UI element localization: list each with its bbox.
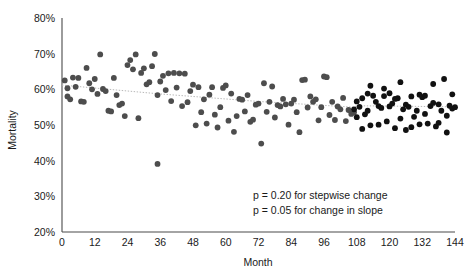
data-point	[185, 99, 191, 105]
data-point	[81, 99, 87, 105]
data-point	[340, 95, 346, 101]
data-point	[204, 121, 210, 127]
x-tick-label: 132	[413, 236, 431, 248]
data-point	[395, 95, 401, 101]
data-point	[84, 65, 90, 71]
data-point	[354, 99, 360, 105]
data-point	[65, 85, 71, 91]
x-tick-label: 120	[381, 236, 399, 248]
data-point	[223, 83, 229, 89]
data-point	[329, 99, 335, 105]
data-point	[152, 51, 158, 57]
data-point	[226, 118, 232, 124]
x-tick-label: 36	[154, 236, 166, 248]
data-point	[212, 112, 218, 118]
data-point	[381, 86, 387, 92]
y-tick-label: 30%	[34, 190, 55, 202]
data-point	[343, 118, 349, 124]
data-point	[217, 104, 223, 110]
data-point	[381, 93, 387, 99]
data-point	[174, 85, 180, 91]
data-point	[392, 125, 398, 131]
data-point	[111, 75, 117, 81]
data-point	[133, 51, 139, 57]
x-tick-label: 108	[348, 236, 366, 248]
data-point	[182, 71, 188, 77]
data-point	[324, 74, 330, 80]
data-point	[449, 91, 455, 97]
data-point	[264, 109, 270, 115]
data-point	[272, 115, 278, 121]
data-point	[269, 84, 275, 90]
data-point	[209, 84, 215, 90]
data-point	[166, 70, 172, 76]
data-point	[92, 76, 98, 82]
y-tick-label: 40%	[34, 155, 55, 167]
data-point	[155, 92, 161, 98]
y-tick-label: 60%	[34, 83, 55, 95]
x-tick-label: 84	[285, 236, 297, 248]
data-point	[307, 94, 313, 100]
y-tick-label: 70%	[34, 48, 55, 60]
data-point	[422, 93, 428, 99]
data-point	[187, 88, 193, 94]
data-point	[354, 114, 360, 120]
data-point	[280, 96, 286, 102]
y-tick-label: 80%	[34, 12, 55, 24]
y-tick-label: 20%	[34, 226, 55, 238]
data-point	[157, 79, 163, 85]
data-point	[436, 101, 442, 107]
x-tick-label: 96	[318, 236, 330, 248]
data-point	[114, 92, 120, 98]
data-point	[430, 81, 436, 87]
data-point	[436, 120, 442, 126]
data-point	[378, 105, 384, 111]
data-point	[422, 111, 428, 117]
data-point	[368, 122, 374, 128]
data-point	[196, 84, 202, 90]
data-point	[86, 80, 92, 86]
data-point	[425, 121, 431, 127]
data-point	[444, 130, 450, 136]
data-point	[277, 104, 283, 110]
chart-canvas: 20%30%40%50%60%70%80% 012243648607284961…	[0, 0, 470, 272]
data-point	[256, 101, 262, 107]
data-point	[130, 66, 136, 72]
data-point	[73, 84, 79, 90]
data-point	[190, 82, 196, 88]
data-point	[242, 109, 248, 115]
data-point	[365, 91, 371, 97]
data-point	[359, 126, 365, 132]
data-point	[411, 114, 417, 120]
data-point	[302, 77, 308, 83]
data-point	[201, 96, 207, 102]
data-point	[97, 51, 103, 57]
data-point	[179, 103, 185, 109]
data-point	[245, 92, 251, 98]
data-point	[398, 116, 404, 122]
data-point	[430, 100, 436, 106]
data-point	[127, 57, 133, 63]
data-point	[258, 141, 264, 147]
annotation-slope-pvalue: p = 0.05 for change in slope	[253, 204, 383, 216]
data-point	[337, 106, 343, 112]
data-point	[408, 94, 414, 100]
data-point	[215, 125, 221, 131]
data-point	[359, 95, 365, 101]
data-point	[305, 105, 311, 111]
data-point	[376, 122, 382, 128]
data-point	[294, 109, 300, 115]
data-point	[357, 104, 363, 110]
y-axis-title: Mortality	[6, 109, 18, 149]
x-tick-label: 12	[89, 236, 101, 248]
data-point	[332, 117, 338, 123]
data-point	[155, 161, 161, 167]
data-point	[286, 122, 292, 128]
data-point	[398, 79, 404, 85]
annotation-stepwise-pvalue: p = 0.20 for stepwise change	[253, 189, 388, 201]
data-point	[136, 115, 142, 121]
data-point	[327, 112, 333, 118]
data-point	[444, 113, 450, 119]
data-point	[206, 92, 212, 98]
data-point	[75, 75, 81, 81]
